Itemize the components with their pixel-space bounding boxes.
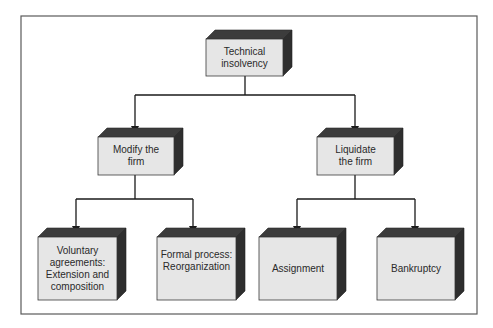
- label-line: composition: [46, 281, 109, 293]
- label-line: Technical: [221, 46, 268, 58]
- label-line: Extension and: [46, 269, 109, 281]
- label-line: insolvency: [221, 58, 268, 70]
- label-line: the firm: [335, 156, 376, 168]
- label-line: Voluntary: [46, 245, 109, 257]
- label-line: Reorganization: [161, 261, 233, 273]
- label-technical-insolvency: Technical insolvency: [206, 39, 283, 76]
- label-assignment: Assignment: [259, 237, 337, 300]
- label-voluntary-agreements: Voluntary agreements: Extension and comp…: [38, 237, 117, 300]
- label-line: firm: [113, 156, 159, 168]
- label-line: Bankruptcy: [391, 263, 441, 275]
- label-bankruptcy: Bankruptcy: [377, 237, 455, 300]
- label-liquidate-the-firm: Liquidate the firm: [317, 137, 394, 175]
- label-modify-the-firm: Modify the firm: [98, 137, 174, 175]
- label-line: Assignment: [272, 263, 324, 275]
- label-line: agreements:: [46, 257, 109, 269]
- label-line: Liquidate: [335, 144, 376, 156]
- label-line: Formal process:: [161, 249, 233, 261]
- label-line: Modify the: [113, 144, 159, 156]
- label-formal-process: Formal process: Reorganization: [157, 237, 236, 285]
